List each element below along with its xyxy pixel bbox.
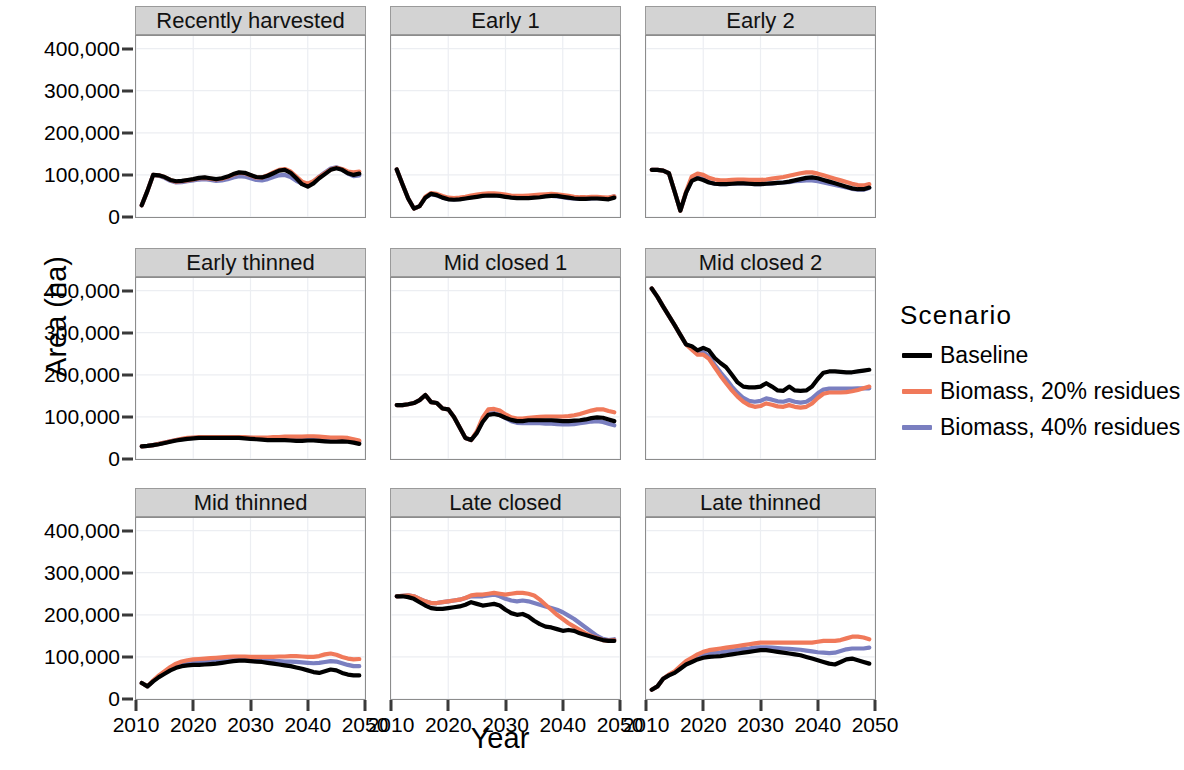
- panel-title: Late closed: [390, 488, 621, 517]
- x-tick-label: 2020: [680, 713, 727, 737]
- panel-title: Mid thinned: [135, 488, 366, 517]
- y-tick-mark: [122, 131, 133, 134]
- y-tick-mark: [122, 47, 133, 50]
- legend-entries: BaselineBiomass, 20% residuesBiomass, 40…: [900, 337, 1170, 445]
- y-tick-label: 100,000: [44, 645, 120, 669]
- y-tick-mark: [122, 216, 133, 219]
- y-tick-mark: [122, 373, 133, 376]
- x-tick-label: 2040: [284, 713, 331, 737]
- y-tick-mark: [122, 698, 133, 701]
- x-tick-mark: [504, 700, 507, 711]
- legend-line-icon: [902, 389, 932, 394]
- panel-title: Mid closed 2: [645, 248, 876, 277]
- x-tick-mark: [306, 700, 309, 711]
- legend-entry[interactable]: Baseline: [900, 337, 1170, 373]
- x-tick-label: 2020: [170, 713, 217, 737]
- facet-panel: Recently harvested: [135, 6, 366, 218]
- legend-swatch: [900, 374, 934, 408]
- facet-panel: Mid closed 1: [390, 248, 621, 460]
- x-tick-label: 2020: [425, 713, 472, 737]
- y-tick-label: 0: [108, 687, 120, 711]
- panel-plot-area: [645, 35, 876, 218]
- panel-plot-area: [135, 277, 366, 460]
- x-tick-group: 20102020203020402050: [136, 700, 365, 740]
- y-tick-label: 200,000: [44, 603, 120, 627]
- y-tick-label: 400,000: [44, 519, 120, 543]
- x-tick-label: 2050: [852, 713, 899, 737]
- x-tick-mark: [249, 700, 252, 711]
- y-tick-mark: [122, 415, 133, 418]
- y-tick-label: 300,000: [44, 561, 120, 585]
- y-tick-mark: [122, 458, 133, 461]
- x-tick-group: 20102020203020402050: [391, 700, 620, 740]
- x-tick-mark: [364, 700, 367, 711]
- x-tick-label: 2010: [113, 713, 160, 737]
- panel-plot-area: [135, 35, 366, 218]
- facet-panel: Late thinned: [645, 488, 876, 700]
- facet-panel: Early 1: [390, 6, 621, 218]
- x-tick-label: 2040: [539, 713, 586, 737]
- x-tick-mark: [645, 700, 648, 711]
- y-tick-mark: [122, 655, 133, 658]
- y-tick-mark: [122, 613, 133, 616]
- facet-panel: Early thinned: [135, 248, 366, 460]
- panel-title: Early 2: [645, 6, 876, 35]
- legend-entry[interactable]: Biomass, 20% residues: [900, 373, 1170, 409]
- x-tick-label: 2030: [227, 713, 274, 737]
- legend-line-icon: [902, 425, 932, 430]
- panel-title: Late thinned: [645, 488, 876, 517]
- panel-plot-area: [645, 517, 876, 700]
- y-tick-mark: [122, 289, 133, 292]
- panel-plot-area: [390, 517, 621, 700]
- facet-panel: Mid thinned: [135, 488, 366, 700]
- legend: Scenario BaselineBiomass, 20% residuesBi…: [900, 300, 1170, 445]
- x-tick-label: 2010: [368, 713, 415, 737]
- facet-panel: Early 2: [645, 6, 876, 218]
- panel-plot-area: [645, 277, 876, 460]
- facet-panel: Late closed: [390, 488, 621, 700]
- x-tick-mark: [561, 700, 564, 711]
- y-tick-group: 0100,000200,000300,000400,000: [8, 0, 120, 770]
- y-tick-mark: [122, 571, 133, 574]
- x-tick-mark: [192, 700, 195, 711]
- legend-label: Biomass, 40% residues: [940, 414, 1180, 441]
- facet-line-chart: Area (ha) Year 0100,000200,000300,000400…: [0, 0, 1184, 770]
- x-tick-mark: [135, 700, 138, 711]
- y-tick-mark: [122, 331, 133, 334]
- x-tick-label: 2030: [482, 713, 529, 737]
- panel-plot-area: [390, 35, 621, 218]
- facet-panel: Mid closed 2: [645, 248, 876, 460]
- panel-plot-area: [135, 517, 366, 700]
- x-tick-mark: [702, 700, 705, 711]
- panel-title: Early thinned: [135, 248, 366, 277]
- legend-swatch: [900, 410, 934, 444]
- x-tick-mark: [759, 700, 762, 711]
- y-tick-mark: [122, 529, 133, 532]
- panel-plot-area: [390, 277, 621, 460]
- y-tick-mark: [122, 173, 133, 176]
- x-tick-mark: [619, 700, 622, 711]
- panel-title: Recently harvested: [135, 6, 366, 35]
- panel-title: Early 1: [390, 6, 621, 35]
- panel-title: Mid closed 1: [390, 248, 621, 277]
- legend-label: Biomass, 20% residues: [940, 378, 1180, 405]
- legend-line-icon: [902, 353, 932, 358]
- x-tick-label: 2030: [737, 713, 784, 737]
- y-tick-mark: [122, 89, 133, 92]
- legend-entry[interactable]: Biomass, 40% residues: [900, 409, 1170, 445]
- x-tick-label: 2040: [794, 713, 841, 737]
- x-tick-mark: [816, 700, 819, 711]
- x-tick-mark: [390, 700, 393, 711]
- legend-swatch: [900, 338, 934, 372]
- x-tick-label: 2010: [623, 713, 670, 737]
- x-tick-group: 20102020203020402050: [646, 700, 875, 740]
- legend-label: Baseline: [940, 342, 1028, 369]
- legend-title: Scenario: [900, 300, 1170, 331]
- x-tick-mark: [447, 700, 450, 711]
- x-tick-mark: [874, 700, 877, 711]
